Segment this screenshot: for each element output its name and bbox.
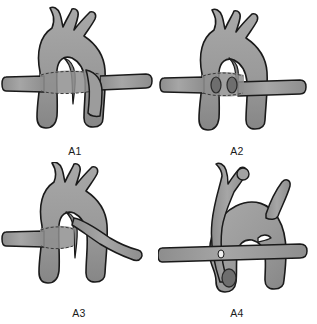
illustration-a1 (0, 0, 158, 143)
panel-label-a1: A1 (0, 146, 154, 157)
panel-a2: A2 (158, 0, 316, 162)
loop-marker-a4 (218, 250, 224, 258)
posterior-vessel-right-a2 (238, 80, 306, 96)
vessel-band-overlay-a2 (202, 72, 244, 97)
panel-a4: A4 (158, 162, 316, 324)
illustration-a4 (158, 162, 316, 305)
panel-a1: A1 (0, 0, 158, 162)
vessel-band-overlay-a3 (40, 226, 74, 249)
panel-label-a4: A4 (158, 308, 316, 319)
posterior-vessel-left-a2 (160, 77, 204, 93)
panel-label-a3: A3 (0, 308, 158, 319)
panel-label-a2: A2 (158, 146, 316, 157)
panel-a3: A3 (0, 162, 158, 324)
aorta-body-a2 (199, 9, 267, 130)
posterior-vessel-right-a1 (100, 74, 152, 90)
branch-bud-a4 (237, 168, 249, 180)
lesion-marker-a4 (222, 269, 236, 287)
figure-aortic-arch-variants: A1 (0, 0, 317, 324)
vessel-stump-marker-right-a2 (227, 77, 237, 93)
superior-branch-right-a4 (266, 180, 290, 219)
illustration-a3 (0, 162, 158, 305)
posterior-vessel-left-a1 (2, 76, 44, 92)
illustration-a2 (158, 0, 316, 143)
vessel-stump-marker-left-a2 (211, 77, 221, 93)
posterior-vessel-left-a3 (2, 231, 44, 247)
